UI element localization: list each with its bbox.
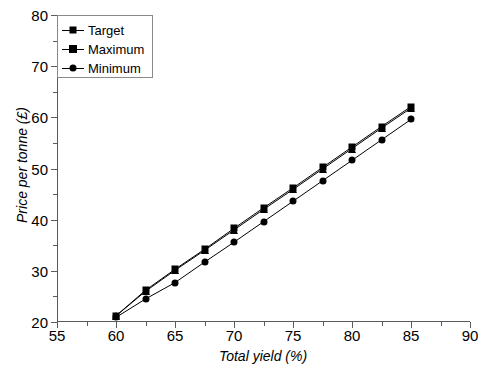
x-tick-minor bbox=[87, 322, 88, 326]
data-point-minimum bbox=[231, 239, 238, 246]
legend-label: Target bbox=[88, 24, 124, 37]
data-point-maximum bbox=[378, 124, 386, 132]
legend-item-minimum: Minimum bbox=[58, 59, 152, 78]
legend-marker-square-icon bbox=[70, 27, 77, 34]
data-point-maximum bbox=[201, 246, 209, 254]
x-tick-label: 75 bbox=[285, 328, 302, 343]
data-point-minimum bbox=[142, 295, 149, 302]
x-tick-minor bbox=[205, 322, 206, 326]
data-point-minimum bbox=[172, 279, 179, 286]
chart-legend: TargetMaximumMinimum bbox=[57, 15, 153, 78]
legend-item-target: Target bbox=[58, 21, 152, 40]
legend-symbol-circle-icon bbox=[58, 59, 88, 78]
legend-symbol-triangle-icon bbox=[58, 40, 88, 59]
data-point-maximum bbox=[289, 185, 297, 193]
y-tick-label: 80 bbox=[31, 8, 48, 23]
data-point-maximum bbox=[319, 165, 327, 173]
x-tick-label: 60 bbox=[108, 328, 125, 343]
x-tick-minor bbox=[382, 322, 383, 326]
data-point-maximum bbox=[260, 205, 268, 213]
y-tick-label: 20 bbox=[31, 315, 48, 330]
legend-label: Minimum bbox=[88, 62, 141, 75]
data-point-maximum bbox=[348, 145, 356, 153]
data-point-minimum bbox=[378, 136, 385, 143]
y-axis-title: Price per tonne (£) bbox=[14, 107, 30, 223]
data-point-minimum bbox=[408, 116, 415, 123]
x-tick-label: 90 bbox=[462, 328, 479, 343]
data-point-minimum bbox=[349, 157, 356, 164]
legend-marker-circle-icon bbox=[70, 65, 77, 72]
plot-area: 20304050607080 5560657075808590 TargetMa… bbox=[57, 15, 470, 322]
y-tick-label: 30 bbox=[31, 263, 48, 278]
x-tick-minor bbox=[264, 322, 265, 326]
legend-marker-triangle-icon bbox=[69, 45, 77, 53]
x-tick-minor bbox=[323, 322, 324, 326]
data-point-minimum bbox=[319, 177, 326, 184]
data-point-maximum bbox=[230, 226, 238, 234]
x-tick-label: 65 bbox=[167, 328, 184, 343]
x-tick-minor bbox=[441, 322, 442, 326]
data-point-minimum bbox=[260, 218, 267, 225]
legend-item-maximum: Maximum bbox=[58, 40, 152, 59]
data-point-maximum bbox=[407, 104, 415, 112]
legend-label: Maximum bbox=[88, 43, 144, 56]
x-axis-title: Total yield (%) bbox=[219, 348, 307, 364]
legend-symbol-square-icon bbox=[58, 21, 88, 40]
data-point-maximum bbox=[171, 266, 179, 274]
y-tick-label: 50 bbox=[31, 161, 48, 176]
x-tick-label: 80 bbox=[344, 328, 361, 343]
chart-figure: Price per tonne (£) Total yield (%) 2030… bbox=[0, 0, 484, 374]
y-tick-label: 40 bbox=[31, 212, 48, 227]
data-point-minimum bbox=[290, 198, 297, 205]
x-tick-label: 70 bbox=[226, 328, 243, 343]
y-tick-label: 60 bbox=[31, 110, 48, 125]
data-point-minimum bbox=[113, 314, 120, 321]
x-tick-minor bbox=[146, 322, 147, 326]
data-point-maximum bbox=[142, 287, 150, 295]
data-point-minimum bbox=[201, 259, 208, 266]
x-tick-label: 85 bbox=[403, 328, 420, 343]
y-tick-label: 70 bbox=[31, 59, 48, 74]
x-tick-label: 55 bbox=[49, 328, 66, 343]
